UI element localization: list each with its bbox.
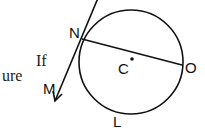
chord-no [82,39,182,65]
geometry-diagram: N C O M L [0,0,205,133]
center-point [130,57,134,61]
label-m: M [43,80,56,97]
label-o: O [185,59,197,76]
label-c: C [118,60,129,77]
tangent-line [55,0,98,101]
label-l: L [113,113,121,130]
label-n: N [69,24,80,41]
